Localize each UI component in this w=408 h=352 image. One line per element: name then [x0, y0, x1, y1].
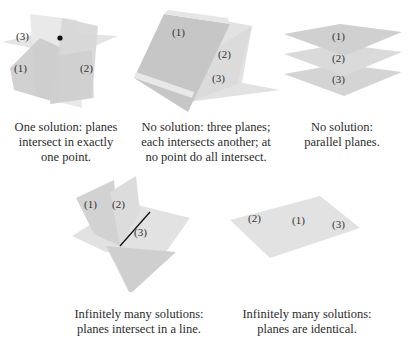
- plane-label-2: (2): [112, 198, 125, 211]
- caption-line: intersect in exactly: [0, 135, 132, 150]
- caption-line: one point.: [0, 150, 132, 165]
- parallel-planes-figure: (1) (2) (3): [280, 20, 408, 100]
- intersection-point-marker: [57, 35, 62, 40]
- caption-line: planes intersect in a line.: [74, 322, 204, 337]
- identical-planes-figure: (2) (1) (3): [230, 192, 370, 272]
- caption-line: each intersects another; at: [126, 135, 286, 150]
- caption-line: no point do all intersect.: [126, 150, 286, 165]
- plane-label-1: (1): [332, 30, 345, 43]
- caption-line: parallel planes.: [280, 135, 404, 150]
- three-planes-point-figure: (3) (1) (2): [0, 8, 130, 118]
- caption-infinite-identical: Infinitely many solutions: planes are id…: [236, 307, 378, 337]
- caption-one-solution: One solution: planes intersect in exactl…: [0, 120, 132, 165]
- plane-label-1: (1): [172, 26, 185, 39]
- plane-label-3: (3): [16, 30, 29, 43]
- caption-line: Infinitely many solutions:: [236, 307, 378, 322]
- planes-line-figure: (1) (2) (3): [70, 172, 200, 292]
- caption-line: No solution:: [280, 120, 404, 135]
- plane-label-3: (3): [332, 73, 345, 86]
- caption-line: Infinitely many solutions:: [74, 307, 204, 322]
- caption-line: One solution: planes: [0, 120, 132, 135]
- plane-label-3: (3): [332, 218, 345, 231]
- plane-label-1: (1): [14, 62, 27, 75]
- caption-no-solution-pairwise: No solution: three planes; each intersec…: [126, 120, 286, 165]
- plane-label-2: (2): [332, 52, 345, 65]
- caption-line: planes are identical.: [236, 322, 378, 337]
- plane-label-2: (2): [80, 62, 93, 75]
- plane-label-1: (1): [292, 214, 305, 227]
- caption-line: No solution: three planes;: [126, 120, 286, 135]
- caption-no-solution-parallel: No solution: parallel planes.: [280, 120, 404, 150]
- plane-label-1: (1): [84, 198, 97, 211]
- plane-label-3: (3): [212, 72, 225, 85]
- caption-infinite-line: Infinitely many solutions: planes inters…: [74, 307, 204, 337]
- plane-label-3: (3): [134, 226, 147, 239]
- three-planes-prism-figure: (1) (2) (3): [130, 6, 280, 116]
- plane-label-2: (2): [248, 212, 261, 225]
- plane-label-2: (2): [218, 48, 231, 61]
